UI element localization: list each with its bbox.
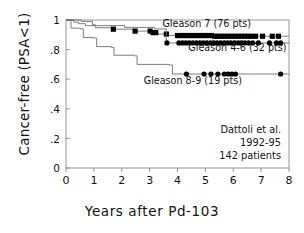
- y-tick-label: 0: [53, 162, 60, 174]
- x-tick-label: 2: [118, 174, 125, 187]
- x-tick-label: 7: [258, 174, 265, 187]
- x-tick-label: 4: [174, 174, 181, 187]
- censor-marker: [153, 30, 158, 35]
- survival-plot: 0.2.4.6.81012345678Gleason 7 (76 pts)Gle…: [0, 0, 304, 233]
- x-axis-label: Years after Pd-103: [0, 203, 304, 219]
- censor-marker: [133, 29, 138, 34]
- x-tick-label: 3: [146, 174, 153, 187]
- source-note-line-2: 1992-95: [240, 137, 281, 148]
- chart-figure: 0.2.4.6.81012345678Gleason 7 (76 pts)Gle…: [0, 0, 304, 233]
- source-note-line-3: 142 patients: [219, 150, 281, 161]
- y-tick-label: .2: [50, 133, 60, 145]
- source-note-line-1: Dattoli et al.: [220, 124, 281, 135]
- x-tick-label: 5: [202, 174, 209, 187]
- censor-marker: [253, 34, 258, 39]
- y-tick-label: .8: [50, 44, 60, 56]
- label-gleason-7: Gleason 7 (76 pts): [162, 18, 251, 29]
- censor-marker: [111, 27, 116, 32]
- y-tick-label: .6: [50, 73, 60, 85]
- label-gleason-89: Gleason 8-9 (19 pts): [144, 75, 242, 86]
- censor-marker: [260, 34, 265, 39]
- x-tick-label: 1: [90, 174, 97, 187]
- censor-marker: [276, 34, 281, 39]
- y-tick-label: .4: [50, 103, 60, 115]
- y-tick-label: 1: [53, 14, 60, 26]
- label-gleason-46: Gleason 4-6 (32 pts): [188, 42, 286, 53]
- censor-marker: [164, 40, 169, 45]
- x-tick-label: 0: [63, 174, 70, 187]
- x-tick-label: 8: [286, 174, 293, 187]
- y-axis-label: Cancer-free (PSA<1): [16, 4, 32, 164]
- censor-marker: [278, 71, 283, 76]
- x-tick-label: 6: [230, 174, 237, 187]
- censor-marker: [270, 34, 275, 39]
